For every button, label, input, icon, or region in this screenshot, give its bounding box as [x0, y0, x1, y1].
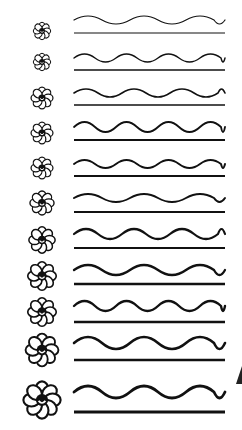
tracing-worksheet [0, 0, 242, 430]
wavy-tracing-line [74, 301, 225, 311]
flower-icon [33, 53, 51, 71]
worksheet-row [30, 191, 225, 215]
wavy-tracing-line [74, 54, 225, 62]
wavy-tracing-line [74, 386, 225, 398]
wavy-tracing-line [74, 337, 225, 349]
wavy-tracing-line [74, 89, 225, 97]
worksheet-row [33, 16, 225, 40]
flower-icon [26, 334, 59, 367]
worksheet-art [0, 0, 242, 430]
wavy-tracing-line [74, 194, 225, 202]
flower-icon [30, 191, 54, 215]
flower-icon [31, 157, 53, 179]
worksheet-row [31, 87, 225, 109]
flower-icon [28, 298, 56, 326]
flower-icon [33, 22, 51, 40]
wavy-tracing-line [74, 160, 225, 168]
worksheet-row [33, 53, 225, 71]
flower-icon [31, 122, 53, 144]
worksheet-row [26, 334, 225, 367]
flower-icon [28, 262, 56, 290]
pencil-tip-icon [236, 366, 242, 384]
wavy-tracing-line [74, 16, 225, 24]
flower-icon [29, 227, 55, 253]
worksheet-row [29, 227, 225, 253]
worksheet-row [28, 262, 225, 290]
worksheet-row [23, 381, 225, 418]
wavy-tracing-line [74, 229, 225, 239]
flower-icon [23, 381, 60, 418]
worksheet-row [31, 122, 225, 144]
worksheet-row [31, 157, 225, 179]
worksheet-row [28, 298, 225, 326]
wavy-tracing-line [74, 265, 225, 275]
wavy-tracing-line [74, 122, 225, 132]
flower-icon [31, 87, 53, 109]
